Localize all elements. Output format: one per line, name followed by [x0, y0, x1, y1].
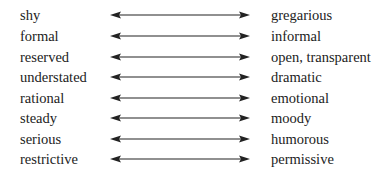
left-trait: shy: [20, 5, 40, 25]
right-trait: gregarious: [271, 5, 332, 25]
right-trait: humorous: [271, 129, 329, 149]
right-trait: emotional: [271, 88, 329, 108]
left-trait: serious: [20, 129, 61, 149]
spectrum-row: reserved open, transparent: [0, 47, 388, 67]
spectrum-row: serious humorous: [0, 129, 388, 149]
spectrum-row: shy gregarious: [0, 5, 388, 25]
right-trait: open, transparent: [271, 47, 371, 67]
spectrum-row: rational emotional: [0, 88, 388, 108]
double-arrow-icon: [110, 112, 250, 124]
spectrum-row: formal informal: [0, 26, 388, 46]
left-trait: understated: [20, 67, 87, 87]
double-arrow-icon: [110, 153, 250, 165]
left-trait: restrictive: [20, 149, 78, 169]
double-arrow-icon: [110, 51, 250, 63]
spectrum-row: understated dramatic: [0, 67, 388, 87]
left-trait: rational: [20, 88, 64, 108]
double-arrow-icon: [110, 9, 250, 21]
right-trait: moody: [271, 108, 311, 128]
left-trait: steady: [20, 108, 57, 128]
left-trait: reserved: [20, 47, 69, 67]
spectrum-row: restrictive permissive: [0, 149, 388, 169]
spectrum-row: steady moody: [0, 108, 388, 128]
right-trait: informal: [271, 26, 321, 46]
double-arrow-icon: [110, 71, 250, 83]
double-arrow-icon: [110, 92, 250, 104]
double-arrow-icon: [110, 30, 250, 42]
left-trait: formal: [20, 26, 59, 46]
right-trait: permissive: [271, 149, 334, 169]
double-arrow-icon: [110, 133, 250, 145]
right-trait: dramatic: [271, 67, 322, 87]
